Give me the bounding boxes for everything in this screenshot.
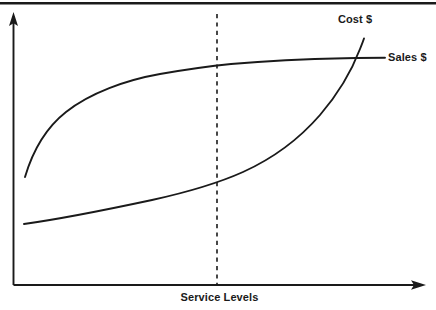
chart-canvas bbox=[0, 0, 436, 310]
x-axis bbox=[14, 280, 427, 290]
sales-curve-label: Sales $ bbox=[388, 52, 427, 63]
x-axis-title-text: Service Levels bbox=[181, 292, 259, 303]
sales-curve bbox=[25, 58, 385, 177]
cost-curve-label: Cost $ bbox=[338, 14, 372, 25]
cost-curve bbox=[24, 39, 364, 225]
x-axis-title: Service Levels bbox=[0, 292, 436, 303]
y-axis bbox=[9, 12, 18, 285]
chart-figure: Cost $ Sales $ Service Levels bbox=[0, 0, 436, 310]
